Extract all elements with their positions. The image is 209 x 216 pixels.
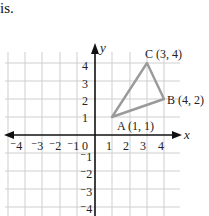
x-axis-left-arrow-icon <box>4 131 14 139</box>
coordinate-plane: y x ⁻4 ⁻3 ⁻2 ⁻1 0 1 2 3 4 4 3 2 1 ⁻1 ⁻2 … <box>0 0 209 216</box>
svg-text:⁻2: ⁻2 <box>49 139 61 153</box>
point-b-label: B (4, 2) <box>167 93 204 107</box>
svg-text:1: 1 <box>106 139 112 153</box>
x-axis-label: x <box>183 127 190 142</box>
svg-text:3: 3 <box>140 139 146 153</box>
svg-text:⁻3: ⁻3 <box>31 139 43 153</box>
svg-text:4: 4 <box>82 59 88 73</box>
x-axis-right-arrow-icon <box>172 131 182 139</box>
point-a-label: A (1, 1) <box>117 119 154 133</box>
point-c-label: C (3, 4) <box>145 47 182 61</box>
svg-text:⁻3: ⁻3 <box>80 185 92 199</box>
y-tick-labels: 4 3 2 1 ⁻1 ⁻2 ⁻3 ⁻4 <box>80 59 92 216</box>
svg-text:⁻4: ⁻4 <box>10 139 22 153</box>
svg-text:3: 3 <box>82 77 88 91</box>
svg-text:1: 1 <box>82 111 88 125</box>
svg-text:2: 2 <box>82 94 88 108</box>
svg-text:2: 2 <box>123 139 129 153</box>
svg-text:⁻2: ⁻2 <box>80 167 92 181</box>
svg-text:⁻1: ⁻1 <box>80 150 92 164</box>
svg-text:4: 4 <box>158 139 164 153</box>
triangle-abc <box>112 63 164 117</box>
y-axis-label: y <box>98 40 106 55</box>
svg-text:⁻4: ⁻4 <box>80 202 92 216</box>
svg-text:⁻1: ⁻1 <box>67 139 79 153</box>
x-axis <box>4 131 182 139</box>
y-axis-up-arrow-icon <box>91 43 99 54</box>
